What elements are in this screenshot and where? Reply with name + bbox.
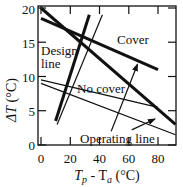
design-line-thin — [57, 15, 102, 125]
xtick-0: 0 — [38, 151, 45, 166]
operating-arrow-2 — [132, 119, 155, 130]
cover-label: Cover — [117, 32, 149, 47]
operating-line-label: Operating line — [80, 131, 155, 146]
series-lines — [41, 8, 176, 135]
xtick-20: 20 — [64, 151, 77, 166]
design-label-2: line — [41, 56, 61, 71]
x-tick-labels: 0 20 40 60 80 — [38, 151, 165, 166]
annotations: Cover Design line No cover Operating lin… — [41, 32, 155, 146]
ytick-10: 10 — [22, 70, 35, 85]
y-tick-labels: 0 5 10 15 20 — [22, 2, 35, 153]
ytick-0: 0 — [29, 138, 36, 153]
y-ticks — [38, 8, 176, 145]
ytick-15: 15 — [22, 36, 35, 51]
xtick-60: 60 — [122, 151, 135, 166]
chart: 0 5 10 15 20 0 20 40 60 80 ΔT (°C) Tp - … — [0, 0, 183, 187]
y-axis-label: ΔT (°C) — [4, 78, 20, 123]
ytick-5: 5 — [29, 104, 36, 119]
x-axis-label: Tp - Ta (°C) — [74, 168, 140, 185]
xtick-80: 80 — [152, 151, 165, 166]
ytick-20: 20 — [22, 2, 35, 17]
no-cover-label: No cover — [77, 81, 126, 96]
xtick-40: 40 — [93, 151, 106, 166]
